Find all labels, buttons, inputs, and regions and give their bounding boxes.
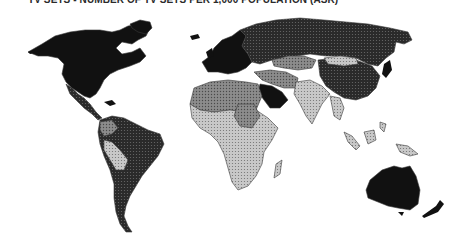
region-southeast-asia bbox=[330, 96, 344, 120]
region-tasmania bbox=[398, 212, 404, 216]
region-japan bbox=[382, 60, 392, 78]
region-india bbox=[294, 80, 330, 124]
region-caribbean bbox=[104, 100, 116, 106]
region-philippines bbox=[380, 122, 386, 132]
region-new-guinea bbox=[396, 144, 418, 156]
world-map bbox=[0, 0, 461, 248]
region-iceland bbox=[190, 34, 200, 40]
region-sub-saharan-africa bbox=[190, 104, 278, 190]
region-central-asia bbox=[272, 56, 316, 70]
region-madagascar bbox=[274, 160, 282, 178]
region-australia bbox=[366, 166, 420, 210]
region-borneo bbox=[364, 130, 376, 144]
region-sumatra bbox=[344, 132, 360, 150]
region-north-america bbox=[28, 24, 150, 98]
region-new-zealand bbox=[422, 200, 444, 218]
